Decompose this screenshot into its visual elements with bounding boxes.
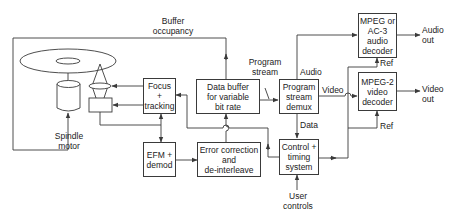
audio-out-label: Audio out	[422, 25, 444, 45]
block-label-line: +	[157, 91, 162, 101]
block-label-line: tracking	[145, 101, 175, 111]
user-controls-label: User controls	[280, 191, 316, 211]
label-line: motor	[54, 141, 84, 151]
block-label-line: Program	[283, 82, 316, 92]
ref-video-label: Ref	[380, 121, 393, 131]
block-label-line: for variable	[207, 92, 249, 102]
block-label-line: bit rate	[215, 102, 241, 112]
buffer-occupancy-label: Buffer occupancy	[148, 16, 198, 36]
block-label-line: Error correction	[200, 145, 259, 155]
block-label-line: Control +	[282, 142, 317, 152]
block-label-line: Focus	[148, 81, 171, 91]
dvd-block-diagram: Focus + tracking Data buffer for variabl…	[0, 0, 454, 222]
block-label-line: and	[222, 155, 236, 165]
error-correction-block: Error correction and de-interleave	[197, 142, 261, 177]
focus-tracking-block: Focus + tracking	[143, 78, 176, 114]
block-label-line: timing	[288, 152, 311, 162]
block-label-line: system	[286, 162, 313, 172]
efm-demod-block: EFM + demod	[143, 142, 176, 177]
control-timing-block: Control + timing system	[279, 139, 319, 175]
data-buffer-block: Data buffer for variable bit rate	[196, 79, 260, 114]
block-label-line: audio	[367, 36, 388, 46]
video-decoder-block: MPEG-2 video decoder	[358, 72, 397, 111]
label-line: Buffer	[148, 16, 198, 26]
data-label: Data	[300, 120, 318, 130]
spindle-motor-icon	[57, 81, 80, 112]
block-label-line: decoder	[362, 97, 393, 107]
block-label-line: de-interleave	[204, 165, 253, 175]
ref-audio-label: Ref	[380, 58, 393, 68]
spindle-motor-label: Spindle motor	[54, 131, 84, 151]
audio-decoder-block: MPEG or AC-3 audio decoder	[358, 13, 397, 58]
label-line: Audio	[422, 25, 444, 35]
label-line: Program	[245, 57, 285, 67]
label-line: controls	[280, 201, 316, 211]
label-line: out	[422, 35, 444, 45]
block-label-line: EFM +	[147, 150, 172, 160]
program-stream-demux-block: Program stream demux	[279, 79, 319, 114]
label-line: out	[422, 94, 444, 104]
block-label-line: video	[367, 87, 387, 97]
buffer-occupancy-line	[13, 38, 226, 150]
block-label-line: MPEG-2	[361, 77, 394, 87]
block-label-line: demux	[286, 102, 312, 112]
block-label-line: decoder	[362, 46, 393, 56]
block-label-line: demod	[147, 160, 173, 170]
audio-label: Audio	[300, 67, 322, 77]
video-label: Video	[322, 85, 344, 95]
label-line: stream	[245, 67, 285, 77]
program-stream-label: Program stream	[245, 57, 285, 77]
label-line: User	[280, 191, 316, 201]
block-label-line: Data buffer	[207, 82, 249, 92]
lens-icon	[89, 83, 111, 89]
label-line: Spindle	[54, 131, 84, 141]
block-label-line: AC-3	[368, 26, 387, 36]
label-line: Video	[422, 84, 444, 94]
block-label-line: MPEG or	[360, 16, 395, 26]
video-out-label: Video out	[422, 84, 444, 104]
label-line: occupancy	[148, 26, 198, 36]
block-label-line: stream	[286, 92, 312, 102]
